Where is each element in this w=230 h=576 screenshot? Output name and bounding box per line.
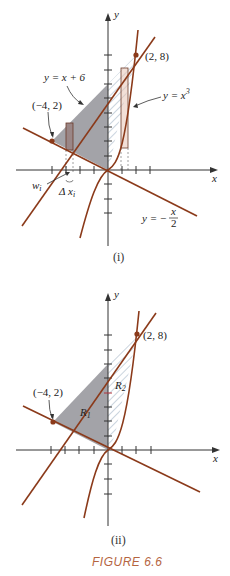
x-axis-label: x	[211, 172, 217, 184]
figure-6-6: y x (2, 8) (−4, 2) y = x + 6 y = x3 y = …	[0, 0, 230, 576]
figure-caption: FIGURE 6.6	[92, 555, 162, 569]
label-line-lower-den: 2	[171, 217, 177, 229]
label-line-upper: y = x + 6	[43, 71, 86, 83]
brace-icon	[66, 180, 73, 182]
point-2-8	[133, 52, 138, 57]
panel-ii-label: (ii)	[111, 533, 126, 547]
point-label-2-8: (2, 8)	[143, 329, 167, 342]
label-line-lower-num: x	[170, 205, 176, 217]
label-w: wi	[32, 179, 42, 193]
panel-ii: y x (2, 8) (−4, 2) R1 R2 (ii)	[16, 288, 220, 547]
x-axis-label: x	[212, 452, 218, 464]
y-axis-label: y	[113, 8, 119, 20]
point-label-neg4-2: (−4, 2)	[32, 99, 62, 112]
strip-rect-left	[66, 123, 73, 150]
label-line-lower: y = −	[141, 212, 167, 224]
point-neg4-2	[50, 419, 55, 424]
line-y-x-plus-6	[22, 37, 155, 226]
panel-i: y x (2, 8) (−4, 2) y = x + 6 y = x3 y = …	[16, 8, 218, 264]
label-delta-x: Δ xi	[58, 185, 75, 199]
label-cubic: y = x3	[162, 87, 190, 101]
point-label-2-8: (2, 8)	[145, 50, 169, 63]
point-neg4-2	[49, 138, 54, 143]
point-label-neg4-2: (−4, 2)	[33, 386, 63, 399]
panel-i-label: (i)	[113, 250, 124, 264]
point-2-8	[134, 331, 139, 336]
y-axis-arrow-icon	[105, 293, 111, 301]
y-axis-arrow-icon	[105, 13, 111, 21]
y-axis-label: y	[113, 288, 119, 300]
